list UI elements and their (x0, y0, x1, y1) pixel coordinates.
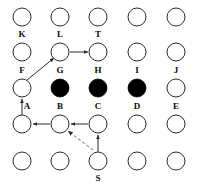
graph-node-blocked[interactable] (128, 79, 146, 97)
node-label: J (174, 66, 179, 75)
node-label: C (95, 102, 102, 111)
graph-node-open[interactable] (13, 115, 31, 133)
graph-edge (68, 131, 93, 150)
graph-node-open[interactable] (167, 8, 185, 26)
graph-node-open[interactable] (13, 8, 31, 26)
node-label: G (56, 66, 63, 75)
graph-node-open[interactable] (51, 8, 69, 26)
graph-node-open[interactable] (89, 115, 107, 133)
node-label: I (135, 66, 139, 75)
graph-node-open[interactable] (89, 8, 107, 26)
graph-node-open[interactable] (167, 79, 185, 97)
node-label: F (19, 66, 25, 75)
graph-node-blocked[interactable] (89, 79, 107, 97)
node-label: A (24, 102, 31, 111)
graph-node-open[interactable] (51, 152, 69, 170)
graph-node-open[interactable] (89, 152, 107, 170)
node-label: S (95, 174, 100, 183)
node-label: K (18, 30, 25, 39)
graph-node-open[interactable] (167, 115, 185, 133)
graph-node-blocked[interactable] (51, 79, 69, 97)
graph-node-open[interactable] (128, 152, 146, 170)
node-label: D (134, 102, 141, 111)
graph-node-open[interactable] (89, 43, 107, 61)
graph-edge (27, 58, 54, 80)
node-label: E (173, 102, 179, 111)
graph-node-open[interactable] (13, 43, 31, 61)
node-label: L (57, 30, 63, 39)
node-label: H (94, 66, 101, 75)
node-label: B (57, 102, 63, 111)
graph-node-open[interactable] (13, 79, 31, 97)
graph-node-open[interactable] (51, 115, 69, 133)
graph-node-open[interactable] (128, 43, 146, 61)
node-label: T (95, 30, 101, 39)
grid-graph-figure: KLTFGHIJABCDES (0, 0, 199, 195)
graph-node-open[interactable] (13, 152, 31, 170)
graph-node-open[interactable] (167, 152, 185, 170)
graph-node-open[interactable] (128, 8, 146, 26)
graph-node-open[interactable] (51, 43, 69, 61)
graph-node-open[interactable] (128, 115, 146, 133)
graph-node-open[interactable] (167, 43, 185, 61)
